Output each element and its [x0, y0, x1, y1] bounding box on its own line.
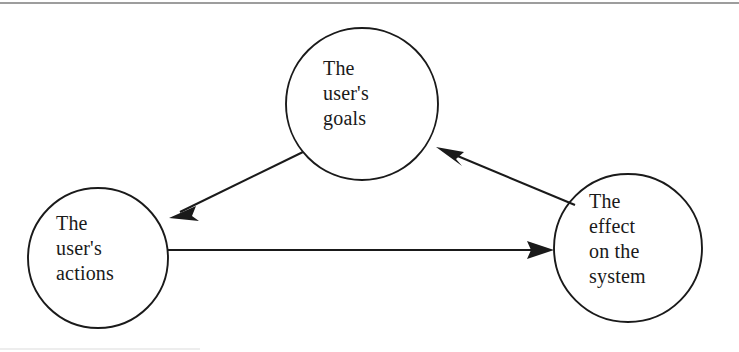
diagram-canvas: The user's goals The user's actions The …: [0, 0, 739, 352]
edge-goals-to-actions: [169, 152, 303, 221]
arrowhead-actions-to-effect: [527, 241, 554, 259]
edge-actions-to-effect: [168, 241, 554, 259]
node-label-actions: The user's actions: [56, 211, 176, 286]
node-label-effect: The effect on the system: [589, 189, 709, 289]
edge-effect-to-goals: [436, 147, 575, 205]
diagram-graphics: [0, 0, 739, 352]
edge-line-effect-to-goals: [448, 152, 575, 205]
node-label-goals: The user's goals: [323, 56, 433, 131]
edge-line-goals-to-actions: [180, 152, 303, 212]
